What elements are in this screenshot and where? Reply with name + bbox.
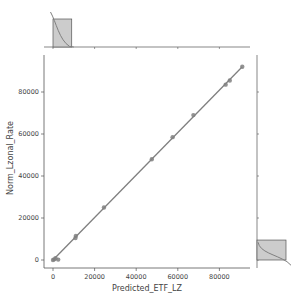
data-point (73, 236, 77, 240)
x-tick-label: 80000 (209, 273, 230, 281)
data-point (228, 78, 232, 82)
top-marginal-histogram (44, 12, 250, 49)
data-point (223, 82, 227, 86)
y-tick-label: 0 (35, 256, 39, 264)
data-point (56, 257, 60, 261)
right-marginal-histogram (257, 55, 291, 268)
right-histogram-bar (257, 240, 286, 260)
y-tick-label: 80000 (18, 88, 39, 96)
data-point (191, 113, 195, 117)
x-tick-label: 40000 (126, 273, 147, 281)
regression-line (53, 67, 242, 260)
y-tick-label: 20000 (18, 214, 39, 222)
data-point (150, 157, 154, 161)
y-axis-label: Norm_Lzonal_Rate (6, 121, 15, 195)
data-point (102, 205, 106, 209)
fit-line (53, 67, 242, 260)
y-tick-label: 40000 (18, 172, 39, 180)
y-tick-label: 60000 (18, 130, 39, 138)
data-point (170, 135, 174, 139)
jointplot-chart: 0200004000060000800000200004000060000800… (0, 0, 299, 298)
x-tick-label: 60000 (167, 273, 188, 281)
x-tick-label: 20000 (84, 273, 105, 281)
x-tick-label: 0 (51, 273, 55, 281)
main-plot-ticks: 0200004000060000800000200004000060000800… (18, 88, 229, 281)
x-axis-label: Predicted_ETF_LZ (112, 284, 183, 293)
data-point (240, 65, 244, 69)
